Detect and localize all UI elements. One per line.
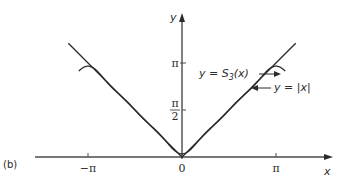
abs-annotation: y = |x| — [273, 81, 311, 94]
y-axis-label: y — [169, 11, 177, 24]
y-tick-label: π — [171, 57, 178, 70]
y-tick-label-numerator: π — [171, 97, 178, 110]
y-tick-label-denominator: 2 — [172, 110, 179, 123]
s3-annotation-fn: S — [222, 67, 229, 80]
figure: −π0ππ2π x y (b) y = S3(x) y = |x| — [0, 0, 339, 182]
x-axis-label: x — [323, 165, 331, 178]
s3-annotation-arrow-icon — [274, 71, 281, 77]
y-tick-label: π2 — [170, 97, 180, 123]
s3-annotation-suffix: (x) — [234, 67, 249, 80]
x-tick-label: π — [272, 162, 279, 175]
s3-annotation-prefix: y = — [198, 67, 222, 80]
s3-annotation: y = S3(x) — [198, 67, 249, 82]
y-axis-arrow-icon — [179, 13, 185, 22]
x-tick-label: −π — [80, 162, 96, 175]
x-tick-label: 0 — [179, 162, 186, 175]
panel-label: (b) — [3, 159, 17, 170]
x-axis-arrow-icon — [324, 154, 333, 160]
